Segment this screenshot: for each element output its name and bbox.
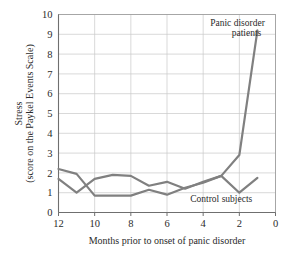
y-tick-label: 10 xyxy=(42,9,53,20)
annotation-panic-disorder-patients-line2: patients xyxy=(232,28,262,38)
y-axis-title-line2: (score on the Paykel Events Scale) xyxy=(24,44,36,183)
x-tick-label: 4 xyxy=(201,218,207,229)
annotation-control-subjects: Control subjects xyxy=(190,194,252,204)
y-tick-label: 8 xyxy=(47,49,52,60)
y-tick-label: 2 xyxy=(47,168,52,179)
y-tick-label: 3 xyxy=(47,148,52,159)
x-tick-label: 8 xyxy=(128,218,133,229)
y-tick-label: 9 xyxy=(47,29,52,40)
annotation-panic-disorder-patients-line1: Panic disorder xyxy=(210,18,265,28)
y-tick-label: 0 xyxy=(47,207,52,218)
stress-line-chart: 012345678910121086420 Panic disorderpati… xyxy=(0,0,293,255)
y-tick-label: 5 xyxy=(47,108,52,119)
x-tick-label: 6 xyxy=(164,218,169,229)
y-tick-label: 4 xyxy=(47,128,53,139)
y-tick-label: 7 xyxy=(47,69,52,80)
y-tick-label: 1 xyxy=(47,187,52,198)
series-layer xyxy=(59,30,258,195)
y-tick-label: 6 xyxy=(47,88,52,99)
x-tick-label: 12 xyxy=(53,218,64,229)
figure-container: 012345678910121086420 Panic disorderpati… xyxy=(0,0,293,255)
x-tick-label: 0 xyxy=(273,218,278,229)
x-tick-label: 2 xyxy=(237,218,242,229)
x-tick-label: 10 xyxy=(89,218,100,229)
y-axis-title-line1: Stress xyxy=(13,101,24,125)
x-axis-title: Months prior to onset of panic disorder xyxy=(89,235,246,246)
series-line-panic-disorder-patients xyxy=(59,30,258,192)
